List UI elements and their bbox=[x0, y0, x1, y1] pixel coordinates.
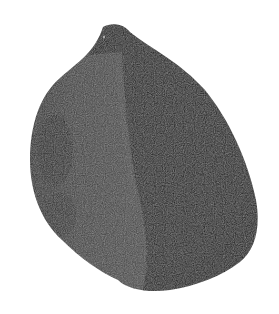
photo bbox=[0, 0, 279, 314]
seed-image bbox=[0, 0, 279, 314]
